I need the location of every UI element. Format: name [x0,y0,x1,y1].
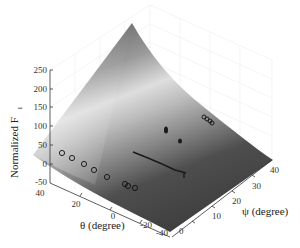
psi-tick: 40 [270,165,280,175]
psi-axis-label: ψ (degree) [242,205,289,218]
psi-tick: 20 [232,196,242,206]
theta-axis-label: θ (degree) [80,219,125,232]
z-tick: 100 [34,121,48,131]
theta-tick: 20 [72,199,82,209]
z-tick: 50 [38,140,48,150]
theta-tick: -40 [156,228,168,238]
z-axis-label: Normalized F [8,117,20,178]
psi-tick: 30 [252,181,262,191]
z-axis-label-group: Normalized F 1 [8,106,24,178]
z-tick: 250 [34,65,48,75]
theta-tick: 40 [36,188,46,198]
theta-tick: -20 [140,220,152,230]
z-tick: 0 [43,159,48,169]
z-tick-labels: 250 200 150 100 50 0 -50 [34,65,48,187]
z-tick: -50 [35,177,47,187]
psi-tick: 0 [179,226,184,236]
z-tick: 150 [34,102,48,112]
psi-tick: 10 [212,211,222,221]
surface-plot: 250 200 150 100 50 0 -50 40 20 0 -20 -40… [0,0,300,248]
z-tick: 200 [34,84,48,94]
z-axis-label-subscript: 1 [16,106,24,110]
